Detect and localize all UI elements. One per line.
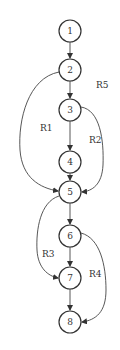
edge-3-5 (81, 107, 103, 192)
node-7: 7 (59, 267, 81, 289)
node-label: 3 (67, 105, 73, 115)
node-6: 6 (59, 225, 81, 247)
region-label-r5: R5 (96, 80, 109, 90)
node-label: 4 (67, 157, 73, 167)
node-4: 4 (59, 151, 81, 173)
region-label-r3: R3 (42, 249, 55, 259)
node-5: 5 (59, 181, 81, 203)
node-label: 2 (67, 65, 73, 75)
node-3: 3 (59, 99, 81, 121)
graph-svg: 12345678 R1R2R3R4R5 (0, 0, 120, 350)
node-2: 2 (59, 59, 81, 81)
node-label: 6 (67, 231, 73, 241)
node-8: 8 (59, 311, 81, 333)
node-1: 1 (59, 20, 81, 42)
region-label-r4: R4 (89, 269, 102, 279)
control-flow-graph: 12345678 R1R2R3R4R5 (0, 0, 120, 350)
node-label: 8 (67, 317, 73, 327)
region-label-r2: R2 (89, 135, 102, 145)
node-label: 1 (67, 26, 73, 36)
node-label: 7 (67, 273, 73, 283)
region-label-r1: R1 (40, 123, 53, 133)
node-label: 5 (67, 187, 73, 197)
edge-5-7 (37, 196, 59, 278)
